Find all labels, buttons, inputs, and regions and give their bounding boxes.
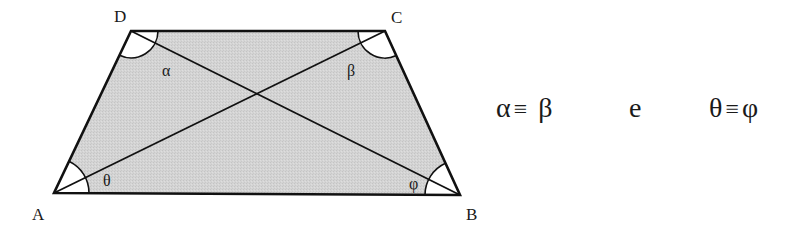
angle-label-beta: β (347, 63, 355, 79)
angle-label-theta: θ (103, 173, 111, 189)
vertex-label-b: B (466, 206, 477, 223)
relation-left: α≡ β (496, 94, 552, 122)
relation-right-b: φ (742, 92, 758, 123)
angle-label-phi: φ (409, 176, 418, 192)
congruent-symbol: ≡ (725, 96, 739, 122)
relation-right: θ≡φ (709, 94, 758, 122)
vertex-label-c: C (391, 9, 402, 26)
trapezoid-fill (54, 31, 460, 195)
vertex-label-d: D (114, 8, 126, 25)
relation-left-a: α (496, 92, 511, 123)
congruent-symbol: ≡ (514, 96, 528, 122)
relation-right-a: θ (709, 92, 722, 123)
vertex-label-a: A (32, 206, 44, 223)
trapezoid-diagram (0, 0, 807, 233)
relation-left-b: β (538, 92, 552, 123)
relation-conjunction: e (629, 94, 641, 122)
angle-label-alpha: α (162, 63, 170, 79)
